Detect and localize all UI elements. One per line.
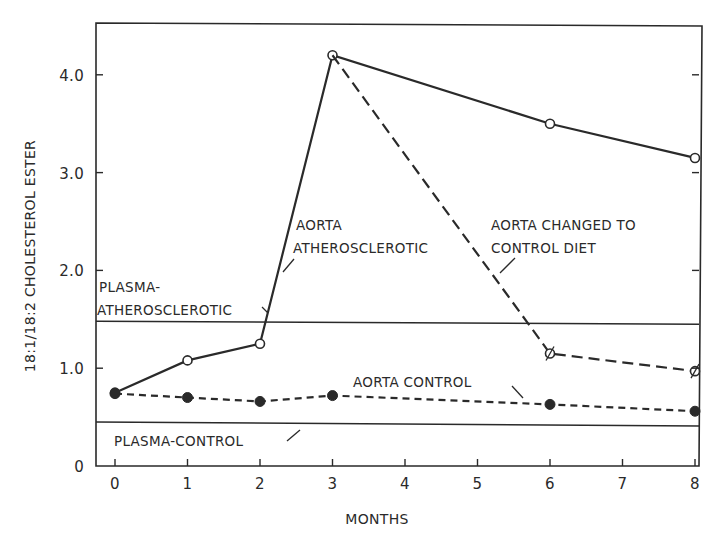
y-tick-label: 0 [74, 458, 84, 476]
annotation-leader [262, 307, 268, 313]
annotation-text: AORTA [296, 217, 342, 233]
line-aorta-control [115, 394, 695, 412]
y-axis-ticks: 01.02.03.04.0 [59, 67, 699, 476]
x-tick-label: 6 [545, 475, 555, 493]
marker-open-circle [183, 356, 192, 365]
annotation-plasma-control: PLASMA-CONTROL [114, 430, 300, 449]
marker-filled-circle [255, 396, 265, 406]
annotation-leader [283, 259, 294, 272]
y-tick-label: 1.0 [59, 360, 84, 378]
annotation-plasma-atherosclerotic: PLASMA- ATHEROSCLEROTIC [97, 279, 268, 318]
annotation-text: PLASMA- [99, 279, 160, 295]
annotation-aorta-changed: AORTA CHANGED TO CONTROL DIET [491, 217, 636, 273]
x-tick-label: 0 [110, 475, 120, 493]
y-tick-label: 2.0 [59, 262, 84, 280]
y-tick-label: 4.0 [59, 67, 84, 85]
data-series [110, 51, 700, 416]
reference-line-plasma-atherosclerotic [96, 321, 699, 324]
marker-open-circle [546, 119, 555, 128]
marker-filled-circle [110, 389, 120, 399]
marker-filled-circle [545, 399, 555, 409]
annotation-text: ATHEROSCLEROTIC [97, 302, 232, 318]
x-tick-label: 4 [400, 475, 410, 493]
annotation-aorta-control: AORTA CONTROL [353, 374, 523, 398]
x-tick-label: 3 [328, 475, 338, 493]
annotation-text: AORTA CONTROL [353, 374, 472, 390]
reference-line-plasma-control [96, 422, 699, 426]
annotation-text: CONTROL DIET [491, 240, 596, 256]
x-axis-ticks: 012345678 [110, 459, 700, 493]
annotation-aorta-atherosclerotic: AORTA ATHEROSCLEROTIC [283, 217, 428, 272]
chart: 012345678 01.02.03.04.0 MONTHS 18:1/18:2… [0, 0, 717, 539]
annotation-text: AORTA CHANGED TO [491, 217, 636, 233]
x-tick-label: 8 [690, 475, 700, 493]
marker-open-circle [691, 153, 700, 162]
annotation-text: ATHEROSCLEROTIC [293, 240, 428, 256]
annotation-leader [512, 386, 523, 398]
x-tick-label: 1 [183, 475, 193, 493]
annotation-leader [500, 258, 515, 273]
marker-filled-circle [328, 391, 338, 401]
annotation-text: PLASMA-CONTROL [114, 433, 244, 449]
x-tick-label: 5 [473, 475, 483, 493]
marker-filled-circle [183, 393, 193, 403]
marker-open-circle [256, 339, 265, 348]
y-axis-title: 18:1/18:2 CHOLESTEROL ESTER [22, 140, 38, 372]
y-tick-label: 3.0 [59, 165, 84, 183]
annotation-leader [287, 430, 300, 441]
marker-filled-circle [690, 406, 700, 416]
x-tick-label: 2 [255, 475, 265, 493]
x-axis-title: MONTHS [345, 511, 408, 527]
x-tick-label: 7 [618, 475, 628, 493]
